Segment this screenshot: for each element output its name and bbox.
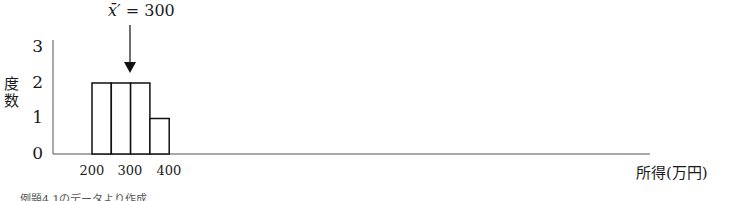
histogram-bar bbox=[131, 83, 150, 154]
x-tick-300: 300 bbox=[110, 164, 150, 177]
mean-arrow-head-icon bbox=[124, 62, 136, 73]
histogram-bar bbox=[111, 83, 130, 154]
y-tick-1: 1 bbox=[23, 109, 43, 126]
figure-caption: 例題4.1のデータより作成 bbox=[20, 194, 148, 201]
x-axis-label: 所得(万円) bbox=[636, 165, 708, 181]
histogram-bar bbox=[92, 83, 111, 154]
y-tick-2: 2 bbox=[23, 74, 43, 91]
x-tick-200: 200 bbox=[72, 164, 112, 177]
mean-annotation: x̄′ = 300 bbox=[108, 3, 175, 19]
y-tick-3: 3 bbox=[23, 38, 43, 55]
y-axis-label-top: 度 bbox=[2, 76, 20, 93]
y-tick-0: 0 bbox=[23, 145, 43, 162]
y-axis-label-bottom: 数 bbox=[2, 93, 20, 110]
mean-value: = 300 bbox=[121, 1, 175, 20]
mean-symbol: x̄′ bbox=[108, 1, 121, 20]
histogram-bar bbox=[150, 119, 169, 155]
x-tick-400: 400 bbox=[149, 164, 189, 177]
bars bbox=[92, 83, 169, 154]
